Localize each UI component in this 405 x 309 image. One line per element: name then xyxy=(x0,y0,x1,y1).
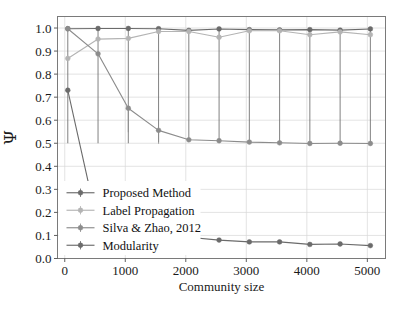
y-tick-label: 0.4 xyxy=(35,159,52,174)
x-tick-group: 010002000300040005000 xyxy=(62,259,381,278)
y-axis-title: Ψ xyxy=(0,130,20,145)
data-point-marker xyxy=(126,36,131,41)
y-tick-label: 0.9 xyxy=(35,44,51,59)
data-point-marker xyxy=(247,240,252,245)
data-point-marker xyxy=(338,242,343,247)
data-point-marker xyxy=(96,37,101,42)
data-point-marker xyxy=(65,26,70,31)
legend-group: Proposed MethodLabel PropagationSilva & … xyxy=(59,181,202,255)
y-tick-label: 0.8 xyxy=(35,67,51,82)
legend-sample-marker xyxy=(78,208,83,213)
data-point-marker xyxy=(368,141,373,146)
data-point-marker xyxy=(338,30,343,35)
legend-label: Proposed Method xyxy=(103,186,192,200)
x-axis-title: Community size xyxy=(179,279,265,294)
data-point-marker xyxy=(368,243,373,248)
y-tick-label: 0.2 xyxy=(35,205,51,220)
line-chart: 010002000300040005000 0.00.10.20.30.40.5… xyxy=(0,0,405,309)
legend-sample-marker xyxy=(78,243,83,248)
data-point-marker xyxy=(217,27,222,32)
x-tick-label: 4000 xyxy=(294,263,320,278)
x-tick-label: 2000 xyxy=(173,263,199,278)
legend-label: Label Propagation xyxy=(103,204,196,218)
data-point-marker xyxy=(186,137,191,142)
data-point-marker xyxy=(247,28,252,33)
data-point-marker xyxy=(126,106,131,111)
x-tick-label: 5000 xyxy=(354,263,380,278)
data-point-marker xyxy=(156,128,161,133)
data-point-marker xyxy=(247,140,252,145)
data-point-marker xyxy=(65,88,70,93)
y-tick-label: 0.1 xyxy=(35,228,51,243)
legend-sample-marker xyxy=(78,190,83,195)
data-point-marker xyxy=(368,27,373,32)
data-point-marker xyxy=(156,29,161,34)
data-point-marker xyxy=(126,26,131,31)
data-point-marker xyxy=(217,238,222,243)
y-tick-label: 1.0 xyxy=(35,21,51,36)
data-point-marker xyxy=(338,141,343,146)
data-point-marker xyxy=(65,56,70,61)
series-proposed-method xyxy=(65,26,372,143)
chart-figure: 010002000300040005000 0.00.10.20.30.40.5… xyxy=(0,0,405,309)
x-tick-label: 0 xyxy=(62,263,69,278)
x-tick-label: 1000 xyxy=(112,263,138,278)
y-tick-label: 0.7 xyxy=(35,90,52,105)
legend-label: Silva & Zhao, 2012 xyxy=(103,221,202,235)
data-point-marker xyxy=(277,140,282,145)
data-point-marker xyxy=(307,141,312,146)
y-tick-group: 0.00.10.20.30.40.50.60.70.80.91.0 xyxy=(35,21,57,266)
data-point-marker xyxy=(307,242,312,247)
y-tick-label: 0.5 xyxy=(35,136,51,151)
legend-sample-marker xyxy=(78,225,83,230)
data-point-marker xyxy=(277,240,282,245)
data-point-marker xyxy=(277,28,282,33)
data-point-marker xyxy=(96,26,101,31)
data-point-marker xyxy=(217,35,222,40)
data-point-marker xyxy=(307,32,312,37)
y-tick-label: 0.3 xyxy=(35,182,51,197)
data-point-marker xyxy=(96,51,101,56)
data-point-marker xyxy=(186,29,191,34)
data-point-marker xyxy=(368,32,373,37)
data-point-marker xyxy=(307,27,312,32)
x-tick-label: 3000 xyxy=(233,263,259,278)
legend-label: Modularity xyxy=(103,239,160,253)
data-point-marker xyxy=(217,138,222,143)
y-tick-label: 0.6 xyxy=(35,113,52,128)
y-tick-label: 0.0 xyxy=(35,251,51,266)
